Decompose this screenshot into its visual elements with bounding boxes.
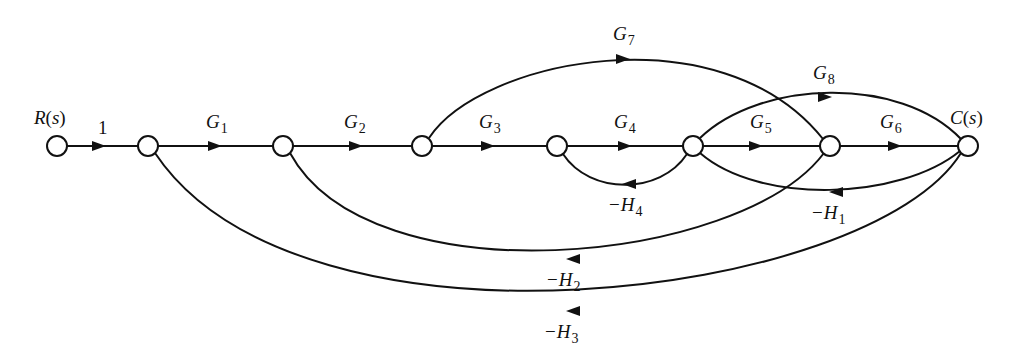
node-6	[820, 136, 840, 156]
g2-subscript: 2	[359, 121, 366, 136]
arrow-h1	[829, 187, 843, 197]
h2-sign: −	[547, 269, 558, 290]
node-1	[138, 136, 158, 156]
label-g2: G2	[344, 112, 366, 131]
input-label: R(s)	[34, 108, 66, 127]
h3-subscript: 3	[571, 331, 578, 346]
g8-symbol: G	[813, 62, 827, 83]
arrow-g4	[618, 141, 632, 151]
g3-symbol: G	[479, 111, 493, 132]
g6-subscript: 6	[895, 121, 902, 136]
h4-sign: −	[609, 194, 620, 215]
arrow-g5	[749, 141, 763, 151]
g7-symbol: G	[613, 23, 627, 44]
label-g6: G6	[880, 112, 902, 131]
arrow-h4	[622, 179, 636, 189]
signal-flow-graph	[0, 0, 1010, 361]
arrow-g2	[349, 141, 363, 151]
arrow-g3	[481, 141, 495, 151]
h4-subscript: 4	[635, 204, 642, 219]
label-h1: −H1	[812, 203, 845, 222]
input-label-paren-close: )	[59, 107, 65, 128]
h3-sign: −	[545, 321, 556, 342]
h1-symbol: H	[824, 202, 838, 223]
h2-subscript: 2	[573, 279, 580, 294]
arrow-unity	[92, 141, 106, 151]
branch-h4	[563, 154, 687, 185]
node-2	[273, 136, 293, 156]
label-g4: G4	[614, 112, 636, 131]
label-h2: −H2	[547, 270, 580, 289]
node-4	[547, 136, 567, 156]
g2-symbol: G	[344, 111, 358, 132]
label-g1: G1	[206, 112, 228, 131]
label-g8: G8	[813, 63, 835, 82]
g7-subscript: 7	[628, 33, 635, 48]
output-label-symbol: C	[950, 107, 963, 128]
h4-symbol: H	[621, 194, 635, 215]
label-unity: 1	[98, 118, 108, 137]
label-g3: G3	[479, 112, 501, 131]
h1-sign: −	[812, 202, 823, 223]
g6-symbol: G	[880, 111, 894, 132]
arrow-g6	[888, 141, 902, 151]
g1-symbol: G	[206, 111, 220, 132]
g5-symbol: G	[750, 111, 764, 132]
output-label: C(s)	[950, 108, 983, 127]
g3-subscript: 3	[494, 121, 501, 136]
input-label-symbol: R	[34, 107, 46, 128]
label-h4: −H4	[609, 195, 642, 214]
g5-subscript: 5	[765, 121, 772, 136]
arrow-h3	[566, 306, 580, 316]
h1-subscript: 1	[838, 212, 845, 227]
g4-symbol: G	[614, 111, 628, 132]
h3-symbol: H	[557, 321, 571, 342]
g1-subscript: 1	[221, 121, 228, 136]
label-g7: G7	[613, 24, 635, 43]
arrowheads	[92, 54, 902, 316]
label-g5: G5	[750, 112, 772, 131]
label-h3: −H3	[545, 322, 578, 341]
arrow-h2	[566, 254, 580, 264]
g8-subscript: 8	[828, 72, 835, 87]
branch-h2	[290, 153, 824, 251]
h2-symbol: H	[559, 269, 573, 290]
arrow-g7	[616, 54, 630, 64]
node-input	[47, 136, 67, 156]
arrow-g1	[208, 141, 222, 151]
node-3	[412, 136, 432, 156]
unity-gain-text: 1	[98, 117, 108, 138]
node-output	[958, 136, 978, 156]
g4-subscript: 4	[629, 121, 636, 136]
branch-g8	[700, 93, 961, 139]
node-5	[683, 136, 703, 156]
output-label-paren-close: )	[976, 107, 982, 128]
